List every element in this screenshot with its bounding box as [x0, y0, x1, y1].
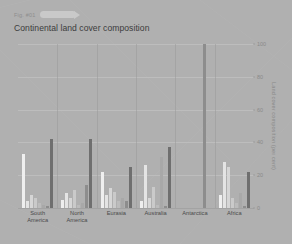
y-axis-tick-mark: [253, 76, 255, 77]
bar-group: [175, 44, 214, 208]
bar[interactable]: [129, 167, 132, 208]
bar[interactable]: [219, 195, 222, 208]
bar-group: [97, 44, 136, 208]
bar[interactable]: [231, 198, 234, 208]
bar[interactable]: [117, 201, 120, 208]
y-axis-tick-label: 100: [257, 41, 266, 47]
bar[interactable]: [239, 193, 242, 208]
bar[interactable]: [101, 172, 104, 208]
x-axis-label: South America: [18, 210, 57, 224]
bar[interactable]: [30, 195, 33, 208]
x-axis-labels: South AmericaNorth AmericaEurasiaAustral…: [18, 210, 254, 224]
bar[interactable]: [65, 193, 68, 208]
bar-groups: [18, 44, 254, 208]
x-axis-label: Africa: [215, 210, 254, 224]
bar[interactable]: [69, 198, 72, 208]
y-axis-tick-label: 60: [257, 107, 263, 113]
bar[interactable]: [160, 157, 163, 208]
bar[interactable]: [144, 165, 147, 208]
y-axis-tick-label: 40: [257, 139, 263, 145]
x-axis-label: North America: [57, 210, 96, 224]
pill-arrow-icon: [40, 11, 76, 18]
x-axis-label: Antarctica: [175, 210, 214, 224]
bar[interactable]: [125, 201, 128, 208]
bar[interactable]: [156, 205, 159, 208]
figure-label-row: Fig. #01: [14, 10, 278, 19]
bar[interactable]: [152, 187, 155, 208]
x-axis-label: Eurasia: [97, 210, 136, 224]
bar[interactable]: [223, 162, 226, 208]
bar[interactable]: [203, 44, 206, 208]
y-axis-tick-mark: [253, 208, 255, 209]
bar[interactable]: [42, 205, 45, 208]
bar-group: [18, 44, 57, 208]
gridline: [18, 208, 254, 209]
bar[interactable]: [26, 201, 29, 208]
page-title: Continental land cover composition: [14, 23, 278, 33]
bar[interactable]: [61, 200, 64, 208]
bar[interactable]: [113, 192, 116, 208]
bar[interactable]: [121, 198, 124, 208]
chart-header: Fig. #01 Continental land cover composit…: [14, 10, 278, 33]
bar[interactable]: [38, 203, 41, 208]
y-axis-tick-mark: [253, 142, 255, 143]
y-axis-title-text: Land cover composition (per cent): [271, 82, 277, 170]
bar[interactable]: [247, 172, 250, 208]
bar-group: [136, 44, 175, 208]
y-axis-tick-label: 20: [257, 172, 263, 178]
bar[interactable]: [148, 198, 151, 208]
bar[interactable]: [109, 188, 112, 208]
bar[interactable]: [34, 198, 37, 208]
bar[interactable]: [22, 154, 25, 208]
y-axis-tick-mark: [253, 44, 255, 45]
bar[interactable]: [164, 206, 167, 208]
y-axis-tick-mark: [253, 175, 255, 176]
bar[interactable]: [85, 185, 88, 208]
plot-area: [18, 44, 254, 208]
bar-group: [57, 44, 96, 208]
bar[interactable]: [81, 203, 84, 208]
bar[interactable]: [168, 147, 171, 208]
x-axis-label: Australia: [136, 210, 175, 224]
bar[interactable]: [89, 139, 92, 208]
bar[interactable]: [105, 195, 108, 208]
y-axis-tick-label: 0: [257, 205, 260, 211]
y-axis-tick-label: 80: [257, 74, 263, 80]
bar[interactable]: [243, 206, 246, 208]
bar[interactable]: [235, 203, 238, 208]
bar[interactable]: [227, 167, 230, 208]
y-axis-tick-mark: [253, 109, 255, 110]
bar[interactable]: [140, 201, 143, 208]
bar[interactable]: [77, 205, 80, 208]
bar[interactable]: [46, 206, 49, 208]
bar[interactable]: [73, 190, 76, 208]
bar[interactable]: [50, 139, 53, 208]
y-axis-title: Land cover composition (per cent): [268, 44, 280, 208]
figure-number-label: Fig. #01: [14, 12, 35, 18]
bar-group: [215, 44, 254, 208]
